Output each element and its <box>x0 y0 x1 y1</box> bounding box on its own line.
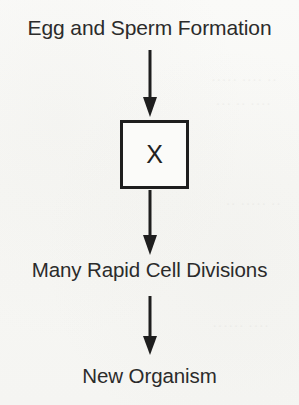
node-new-organism: New Organism <box>0 364 299 388</box>
process-box: X <box>120 120 189 189</box>
arrow-down-3-icon <box>0 296 299 356</box>
arrow-down-1-icon <box>0 50 299 118</box>
flowchart-diagram: ·· ···· ····· ···· ·· ··· ·· ····· ·· ··… <box>0 0 299 405</box>
arrow-down-2-icon <box>0 190 299 256</box>
process-box-label: X <box>146 142 163 167</box>
node-egg-and-sperm-formation: Egg and Sperm Formation <box>0 16 299 40</box>
node-many-rapid-cell-divisions: Many Rapid Cell Divisions <box>0 258 299 282</box>
